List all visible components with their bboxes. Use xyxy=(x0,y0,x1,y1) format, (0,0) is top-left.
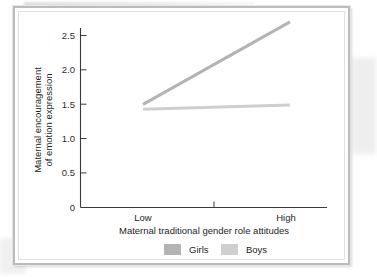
series-line-girls xyxy=(143,22,290,105)
legend-swatch-boys xyxy=(221,244,238,255)
y-axis-title: Maternal encouragement of emotion expres… xyxy=(32,67,54,173)
y-tick-label-0: 0 xyxy=(70,202,75,213)
y-axis-title-line2: of emotion expression xyxy=(43,74,54,167)
scan-smudge-right xyxy=(352,58,376,154)
series-lines xyxy=(143,22,290,109)
legend-label-boys: Boys xyxy=(246,244,267,255)
y-axis: 2.5 2.0 1.5 1.0 0.5 0 xyxy=(62,28,87,213)
y-tick-label-1-0: 1.0 xyxy=(62,133,75,144)
y-tick-label-2-5: 2.5 xyxy=(62,30,75,41)
y-tick-label-2-0: 2.0 xyxy=(62,64,75,75)
x-axis-title: Maternal traditional gender role attitud… xyxy=(119,225,289,236)
y-tick-label-0-5: 0.5 xyxy=(62,167,75,178)
x-axis: Low High Maternal traditional gender rol… xyxy=(81,202,328,237)
legend-item-girls: Girls xyxy=(164,244,209,255)
legend-label-girls: Girls xyxy=(189,244,209,255)
legend-item-boys: Boys xyxy=(221,244,267,255)
line-chart: 2.5 2.0 1.5 1.0 0.5 0 Maternal encourage… xyxy=(15,8,352,267)
legend-swatch-girls xyxy=(164,244,181,255)
y-tick-label-1-5: 1.5 xyxy=(62,99,75,110)
legend: Girls Boys xyxy=(164,244,267,255)
y-axis-title-line1: Maternal encouragement xyxy=(32,67,43,173)
figure-frame: 2.5 2.0 1.5 1.0 0.5 0 Maternal encourage… xyxy=(13,6,350,265)
x-tick-label-high: High xyxy=(276,212,296,223)
series-line-boys xyxy=(143,105,290,109)
x-tick-label-low: Low xyxy=(134,212,152,223)
